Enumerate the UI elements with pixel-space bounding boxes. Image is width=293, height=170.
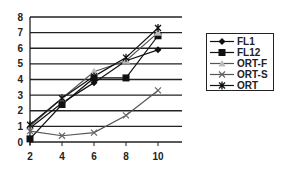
y-tick-label: 0 bbox=[17, 137, 23, 148]
legend-label: ORT-F bbox=[237, 58, 267, 69]
legend-item-ort: ORT bbox=[207, 80, 273, 91]
legend-label: FL12 bbox=[237, 47, 260, 58]
square-marker-icon bbox=[27, 135, 34, 142]
y-tick-label: 2 bbox=[17, 105, 23, 116]
chart-legend: FL1 FL12 ORT-F ORT-S ORT bbox=[206, 33, 274, 91]
x-tick-label: 6 bbox=[91, 151, 97, 162]
y-tick-label: 1 bbox=[17, 121, 23, 132]
square-marker-icon bbox=[207, 47, 237, 58]
x-tick-label: 10 bbox=[152, 151, 164, 162]
diamond-marker-icon bbox=[155, 46, 162, 53]
legend-item-ort-f: ORT-F bbox=[207, 58, 273, 69]
y-tick-label: 4 bbox=[17, 74, 23, 85]
legend-item-fl12: FL12 bbox=[207, 47, 273, 58]
legend-label: FL1 bbox=[237, 36, 255, 47]
legend-item-ort-s: ORT-S bbox=[207, 69, 273, 80]
square-marker-icon bbox=[123, 74, 130, 81]
x-marker-icon bbox=[123, 112, 129, 118]
y-tick-label: 7 bbox=[17, 27, 23, 38]
y-tick-label: 5 bbox=[17, 58, 23, 69]
x-tick-label: 8 bbox=[123, 151, 129, 162]
y-tick-label: 8 bbox=[17, 12, 23, 23]
star-marker-icon bbox=[123, 54, 129, 62]
legend-label: ORT-S bbox=[237, 69, 268, 80]
x-marker-icon bbox=[155, 87, 161, 93]
series-line-fl12 bbox=[30, 36, 158, 139]
triangle-marker-icon bbox=[207, 58, 237, 69]
legend-item-fl1: FL1 bbox=[207, 36, 273, 47]
star-marker-icon bbox=[155, 24, 161, 32]
star-marker-icon bbox=[207, 80, 237, 91]
y-tick-label: 6 bbox=[17, 43, 23, 54]
x-tick-label: 2 bbox=[27, 151, 33, 162]
x-marker-icon bbox=[207, 69, 237, 80]
y-tick-label: 3 bbox=[17, 90, 23, 101]
legend-label: ORT bbox=[237, 80, 258, 91]
diamond-marker-icon bbox=[207, 36, 237, 47]
x-tick-label: 4 bbox=[59, 151, 65, 162]
